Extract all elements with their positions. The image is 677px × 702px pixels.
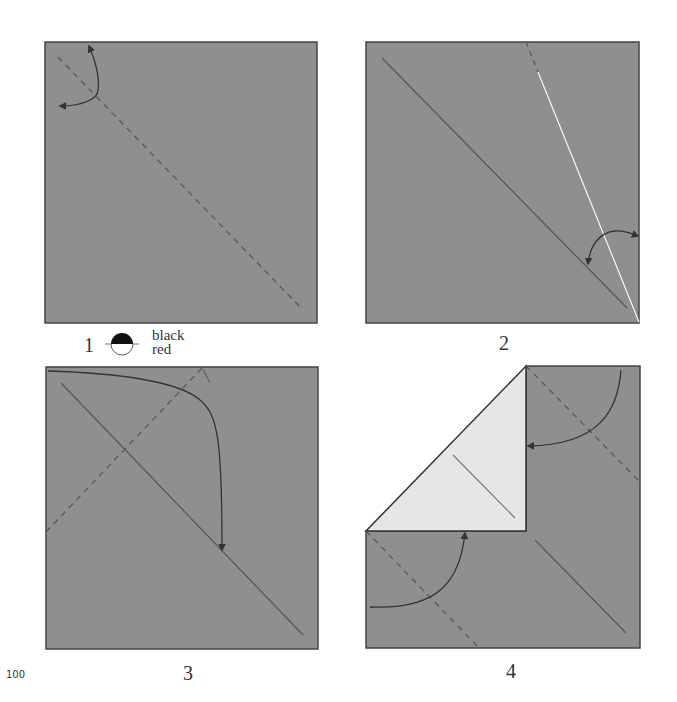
step-2-diagram <box>366 42 639 323</box>
step-1-diagram <box>45 42 317 323</box>
step-number-4: 4 <box>506 660 516 683</box>
step-3-diagram <box>46 367 318 649</box>
diagram-canvas <box>0 0 677 702</box>
page-number: 100 <box>6 669 25 680</box>
step-number-1: 1 <box>84 334 94 357</box>
step-number-2: 2 <box>499 332 509 355</box>
step-4-diagram <box>366 366 640 648</box>
step-number-3: 3 <box>183 662 193 685</box>
color-legend-icon <box>105 333 139 355</box>
legend-red-label: red <box>152 342 171 356</box>
square-paper <box>45 42 317 323</box>
white-flap <box>366 366 526 531</box>
legend-black-label: black <box>152 328 184 342</box>
